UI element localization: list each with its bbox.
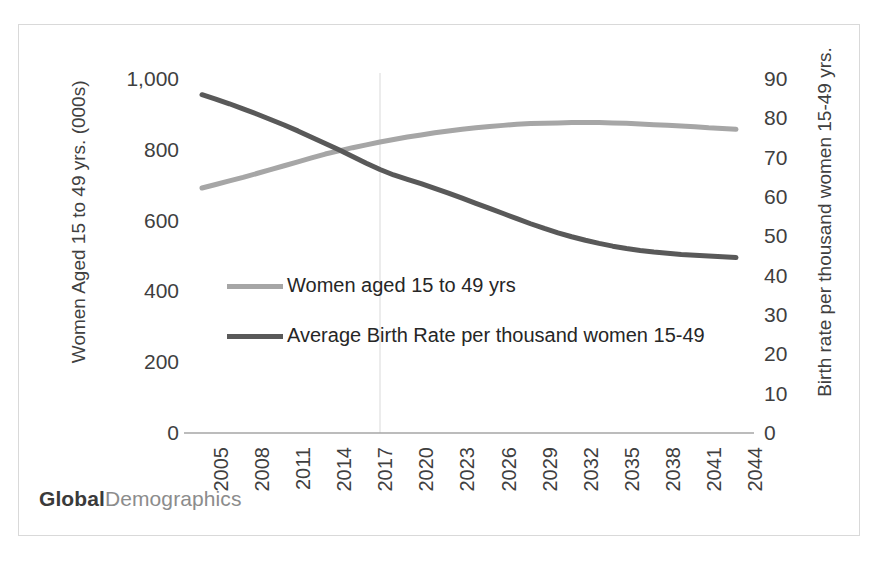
legend-item-average-birth-rate[interactable]: Average Birth Rate per thousand women 15… — [227, 323, 747, 347]
right-axis-tick-label: 40 — [764, 264, 804, 288]
right-axis-tick-label: 0 — [764, 421, 804, 445]
legend-label-women: Women aged 15 to 49 yrs — [287, 273, 516, 297]
x-axis-tick-label: 2029 — [539, 447, 562, 492]
right-axis-tick-label: 70 — [764, 146, 804, 170]
right-axis-tick-label: 10 — [764, 382, 804, 406]
x-axis-tick-label: 2011 — [292, 447, 315, 490]
right-axis-tick-label: 80 — [764, 106, 804, 130]
left-axis-tick-label: 800 — [89, 138, 179, 162]
x-axis-tick-label: 2044 — [744, 447, 767, 492]
brand-footer: GlobalDemographics — [39, 487, 242, 511]
x-axis-tick-label: 2035 — [621, 447, 644, 492]
x-axis-tick-label: 2005 — [210, 447, 233, 492]
chart-legend: Women aged 15 to 49 yrs Average Birth Ra… — [227, 273, 747, 374]
right-axis-title: Birth rate per thousand women 15-49 yrs. — [814, 42, 836, 402]
series-line-average-birth-rate — [202, 95, 736, 258]
left-axis-tick-label: 600 — [89, 209, 179, 233]
brand-name-light: Demographics — [105, 487, 242, 510]
x-axis-tick-label: 2023 — [456, 447, 479, 492]
legend-label-birth-rate: Average Birth Rate per thousand women 15… — [287, 323, 705, 347]
legend-swatch-icon-women — [227, 284, 283, 289]
x-axis-tick-label: 2014 — [333, 447, 356, 492]
right-axis-tick-label: 60 — [764, 185, 804, 209]
x-axis-tick-label: 2032 — [580, 447, 603, 492]
right-axis-tick-label: 90 — [764, 67, 804, 91]
left-axis-tick-label: 200 — [89, 350, 179, 374]
left-axis-tick-label: 1,000 — [89, 67, 179, 91]
left-axis-tick-label: 0 — [89, 421, 179, 445]
chart-plot-svg — [184, 55, 754, 440]
right-axis-tick-label: 30 — [764, 303, 804, 327]
chart-frame: Women Aged 15 to 49 yrs. (000s) Birth ra… — [18, 24, 860, 536]
x-axis-tick-label: 2017 — [374, 447, 397, 492]
x-axis-tick-label: 2008 — [251, 447, 274, 492]
brand-name-strong: Global — [39, 487, 105, 510]
right-axis-ticks: 9080706050403020100 — [764, 55, 808, 440]
x-axis-ticks: 2005200820112014201720202023202620292032… — [184, 413, 754, 503]
left-axis-tick-label: 400 — [89, 279, 179, 303]
legend-item-women-aged-15-to-49[interactable]: Women aged 15 to 49 yrs — [227, 273, 747, 297]
left-axis-ticks: 1,0008006004002000 — [74, 55, 179, 440]
right-axis-tick-label: 20 — [764, 342, 804, 366]
legend-swatch-icon-birth-rate — [227, 334, 283, 339]
x-axis-tick-label: 2026 — [498, 447, 521, 492]
x-axis-tick-label: 2041 — [703, 447, 726, 492]
x-axis-tick-label: 2020 — [415, 447, 438, 492]
series-line-women-aged-15-to-49 — [202, 123, 736, 188]
plot-area — [184, 55, 754, 440]
right-axis-tick-label: 50 — [764, 224, 804, 248]
x-axis-tick-label: 2038 — [662, 447, 685, 492]
